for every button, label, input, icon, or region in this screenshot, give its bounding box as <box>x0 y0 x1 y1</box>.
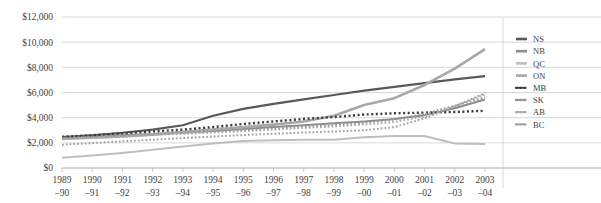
x-axis-tick-label: 1994 <box>204 175 223 185</box>
x-axis-tick-label: –98 <box>296 188 312 198</box>
x-axis-tick-label: 2003 <box>476 175 495 185</box>
x-axis-tick-label: 1990 <box>83 175 102 185</box>
x-axis-tick-label: –99 <box>326 188 342 198</box>
y-axis-tick-label: $0 <box>44 163 54 173</box>
legend-label-mb[interactable]: MB <box>533 83 547 93</box>
x-axis-tick-label: –95 <box>205 188 221 198</box>
x-axis-tick-label: 1992 <box>143 175 162 185</box>
x-axis-tick-label: 2001 <box>415 175 434 185</box>
x-axis-tick-label: –92 <box>114 188 130 198</box>
x-axis-tick-label: –94 <box>175 188 191 198</box>
x-axis-tick-label: –02 <box>416 188 432 198</box>
legend-label-ns[interactable]: NS <box>533 34 544 44</box>
series-line-qc <box>62 136 485 158</box>
y-axis-tick-label: $12,000 <box>22 12 53 22</box>
x-axis-tick-label: –00 <box>356 188 372 198</box>
line-chart: $0$2,000$4,000$6,000$8,000$10,000$12,000… <box>0 0 601 203</box>
x-axis-tick-label: 1993 <box>173 175 192 185</box>
x-axis-tick-label: 2000 <box>385 175 404 185</box>
legend-label-nb[interactable]: NB <box>533 46 545 56</box>
legend-label-sk[interactable]: SK <box>533 95 545 105</box>
x-axis-tick-labels: 1989–901990–911991–921992–931993–941994–… <box>53 175 495 198</box>
data-series <box>62 49 485 158</box>
legend-label-on[interactable]: ON <box>533 71 545 81</box>
x-axis-tick-label: –90 <box>54 188 70 198</box>
y-axis-tick-label: $2,000 <box>27 138 53 148</box>
x-axis-tickmarks <box>62 168 485 172</box>
y-axis-tick-labels: $0$2,000$4,000$6,000$8,000$10,000$12,000 <box>22 12 53 173</box>
legend-label-bc[interactable]: BC <box>533 120 545 130</box>
x-axis-tick-label: 1999 <box>355 175 374 185</box>
legend-label-ab[interactable]: AB <box>533 107 545 117</box>
x-axis-tick-label: –96 <box>235 188 251 198</box>
y-axis-tick-label: $10,000 <box>22 38 53 48</box>
legend-label-qc[interactable]: QC <box>533 59 545 69</box>
gridlines <box>62 17 601 188</box>
chart-legend: NSNBQCONMBSKABBC <box>516 34 547 129</box>
y-axis-tick-label: $6,000 <box>27 88 53 98</box>
x-axis-tick-label: 1996 <box>264 175 283 185</box>
x-axis-tick-label: 1997 <box>294 175 313 185</box>
x-axis-tick-label: –93 <box>145 188 161 198</box>
x-axis-tick-label: –91 <box>84 188 100 198</box>
chart-canvas: $0$2,000$4,000$6,000$8,000$10,000$12,000… <box>0 0 601 203</box>
x-axis-tick-label: –03 <box>447 188 463 198</box>
x-axis-tick-label: 1991 <box>113 175 132 185</box>
x-axis-tick-label: 1989 <box>53 175 72 185</box>
x-axis-tick-label: 1995 <box>234 175 253 185</box>
x-axis-tick-label: 2002 <box>445 175 464 185</box>
x-axis-tick-label: 1998 <box>324 175 343 185</box>
x-axis-tick-label: –01 <box>386 188 402 198</box>
y-axis-tick-label: $8,000 <box>27 63 53 73</box>
x-axis-tick-label: –97 <box>265 188 281 198</box>
x-axis-tick-label: –04 <box>477 188 493 198</box>
y-axis-tick-label: $4,000 <box>27 113 53 123</box>
series-line-on <box>62 49 485 139</box>
